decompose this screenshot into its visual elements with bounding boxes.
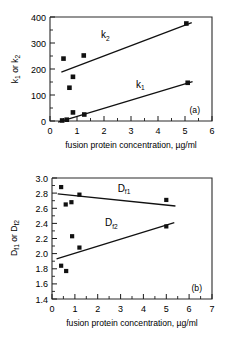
panel-b-label: (b) [191,283,202,293]
panel-a-xtick-2: 2 [101,126,106,136]
panel-a-frame [50,17,212,121]
panel-b-series-label-df1: Df1 [118,183,131,196]
panel-b-xtick-5: 5 [164,304,169,314]
data-point [59,185,63,189]
panel-b-series-label-df2: Df2 [105,217,118,230]
panel-b-xtick-7: 7 [209,304,214,314]
panel-b-xlabel: fusion protein concentration, µg/ml [66,318,198,328]
panel-b-xtick-6: 6 [187,304,192,314]
panel-a-ytick-400: 400 [31,13,46,23]
panel-b-ytick-1.4: 1.4 [35,295,48,305]
panel-a-ylabel-mid: or [10,63,20,75]
panel-b-xtick-2: 2 [95,304,100,314]
panel-b-ylabel-mid: or [9,232,19,244]
chart-panel-a: 0 100 200 300 400 0 1 2 3 4 5 6 k1 or k2 [0,0,243,168]
svg-text:Df1 or Df2: Df1 or Df2 [9,220,20,256]
panel-a-ytick-200: 200 [31,65,46,75]
data-point [164,198,168,202]
data-point [77,245,81,249]
panel-b-ylabel: Df1 or Df2 [9,220,20,256]
panel-b-svg: 1.4 1.6 1.8 2.0 2.2 2.4 2.6 2.8 3.0 0 1 … [0,168,243,338]
panel-a-x-ticklabels: 0 1 2 3 4 5 6 [47,126,214,136]
panel-a-ytick-0: 0 [41,117,46,127]
panel-b-ytick-1.8: 1.8 [35,264,48,274]
panel-a-ylabel: k1 or k2 [10,54,21,83]
panel-a-series-label-k1: k1 [136,79,145,92]
panel-a-xlabel: fusion protein concentration, µg/ml [65,140,197,150]
panel-a-xtick-1: 1 [74,126,79,136]
panel-a-fitline-k1 [58,82,192,122]
svg-text:k1 or k2: k1 or k2 [10,54,21,83]
panel-a-fitline-k2 [61,23,191,72]
panel-a-series-label-k2: k2 [101,29,110,42]
panel-b-y-ticks [52,178,57,299]
panel-a-xtick-5: 5 [182,126,187,136]
figure-container: 0 100 200 300 400 0 1 2 3 4 5 6 k1 or k2 [0,0,243,338]
panel-a-xtick-3: 3 [128,126,133,136]
data-point [71,110,76,115]
panel-b-x-ticklabels: 0 1 2 3 4 5 6 7 [49,304,214,314]
data-point [81,53,86,58]
data-point [185,80,190,85]
panel-a-y-ticklabels: 0 100 200 300 400 [31,13,46,127]
panel-b-x-ticks [52,294,212,299]
data-point [69,200,73,204]
data-point [67,85,72,90]
panel-b-ytick-1.6: 1.6 [35,279,48,289]
panel-b-y-ticklabels: 1.4 1.6 1.8 2.0 2.2 2.4 2.6 2.8 3.0 [35,174,48,305]
panel-a-xtick-0: 0 [47,126,52,136]
panel-a-ytick-300: 300 [31,39,46,49]
panel-b-ytick-2.4: 2.4 [35,219,48,229]
panel-b-ylabel-df2-sub: f2 [13,220,20,226]
data-point [82,112,87,117]
panel-a-ytick-100: 100 [31,91,46,101]
chart-panel-b: 1.4 1.6 1.8 2.0 2.2 2.4 2.6 2.8 3.0 0 1 … [0,168,243,338]
data-point [64,202,68,206]
panel-a-xtick-4: 4 [155,126,160,136]
panel-b-xtick-3: 3 [118,304,123,314]
panel-b-ytick-2.6: 2.6 [35,204,48,214]
panel-a-svg: 0 100 200 300 400 0 1 2 3 4 5 6 k1 or k2 [0,0,243,168]
panel-b-ytick-2.0: 2.0 [35,249,48,259]
data-point [64,117,69,122]
data-point [164,224,168,228]
panel-b-ytick-3.0: 3.0 [35,174,48,184]
panel-b-ytick-2.2: 2.2 [35,234,48,244]
data-point [60,118,65,123]
data-point [70,234,74,238]
panel-b-fitline-df1 [58,194,176,206]
data-point [59,264,63,268]
data-point [77,193,81,197]
panel-a-xtick-6: 6 [209,126,214,136]
panel-a-ylabel-k2-sub: 2 [14,54,21,58]
panel-b-points-df2 [59,224,168,273]
panel-a-label: (a) [189,105,200,115]
panel-a-y-ticks [50,17,55,121]
data-point [64,269,68,273]
data-point [71,75,76,80]
data-point [184,21,189,26]
panel-b-ytick-2.8: 2.8 [35,189,48,199]
panel-b-xtick-4: 4 [141,304,146,314]
data-point [61,56,66,61]
panel-b-xtick-0: 0 [49,304,54,314]
panel-b-xtick-1: 1 [72,304,77,314]
